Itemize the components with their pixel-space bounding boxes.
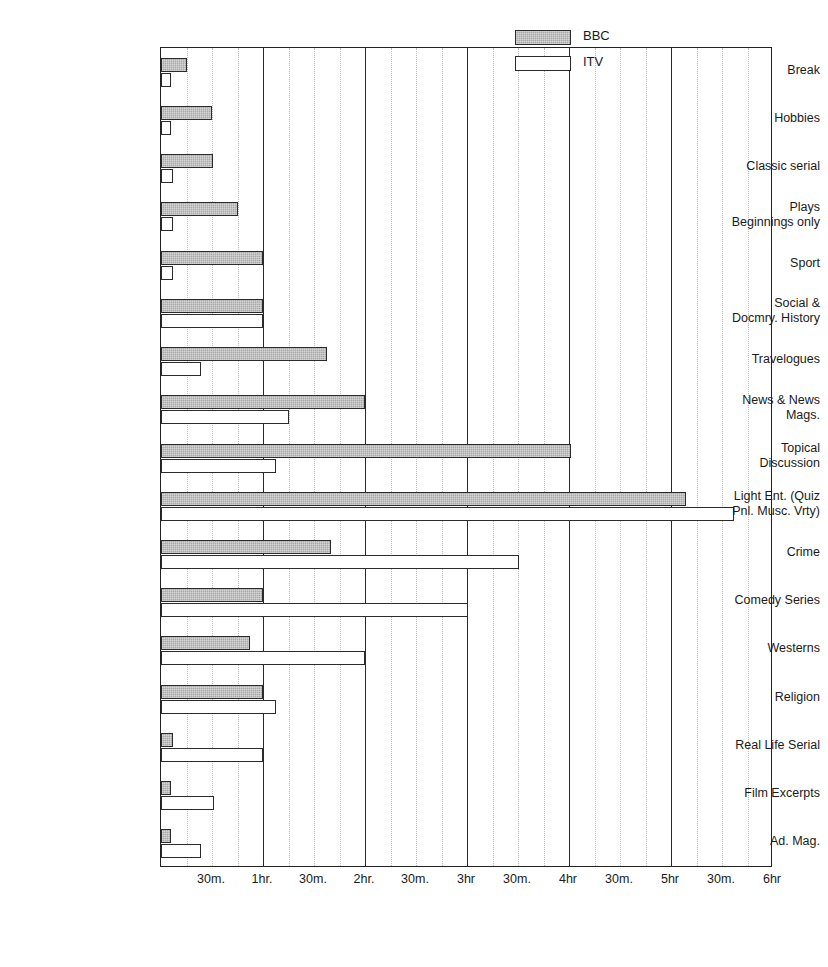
bar-itv [161, 748, 263, 762]
category-label-line1: Plays [789, 200, 820, 214]
category-label-line1: Hobbies [774, 111, 820, 125]
category-label: Film Excerpts [676, 786, 828, 801]
category-label-line2: Discussion [676, 456, 820, 471]
category-label-line1: Real Life Serial [735, 738, 820, 752]
category-label: Religion [676, 690, 828, 705]
category-label: Crime [676, 545, 828, 560]
bar-itv [161, 169, 173, 183]
bar-itv [161, 651, 365, 665]
bar-itv [161, 700, 276, 714]
category-label: News & NewsMags. [676, 393, 828, 423]
category-label-line1: Crime [787, 545, 820, 559]
category-label: Light Ent. (QuizPnl. Musc. Vrty) [676, 489, 828, 519]
bar-bbc [161, 685, 263, 699]
bar-itv [161, 73, 171, 87]
bar-bbc [161, 251, 263, 265]
bar-itv [161, 796, 214, 810]
x-tick-label: 6hr [742, 872, 802, 886]
category-label: PlaysBeginnings only [676, 200, 828, 230]
bar-bbc [161, 540, 331, 554]
bar-chart-figure: BreakHobbiesClassic serialPlaysBeginning… [0, 0, 828, 967]
legend-item-itv: ITV [515, 52, 665, 78]
category-label: Sport [676, 256, 828, 271]
category-label: Classic serial [676, 159, 828, 174]
legend-label: BBC [583, 28, 610, 43]
category-label: Travelogues [676, 352, 828, 367]
bar-bbc [161, 733, 173, 747]
bar-itv [161, 410, 289, 424]
category-label-line1: Break [787, 63, 820, 77]
bar-bbc [161, 299, 263, 313]
category-label-line1: Ad. Mag. [770, 834, 820, 848]
bar-itv [161, 266, 173, 280]
category-label: TopicalDiscussion [676, 441, 828, 471]
bar-itv [161, 314, 263, 328]
bar-itv [161, 217, 173, 231]
bar-itv [161, 844, 201, 858]
category-label-line2: Mags. [676, 408, 820, 423]
category-label-line1: News & News [742, 393, 820, 407]
category-label-line1: Travelogues [752, 352, 820, 366]
bar-bbc [161, 202, 238, 216]
category-label-line2: Docmry. History [676, 311, 820, 326]
category-label-line1: Comedy Series [735, 593, 820, 607]
legend-label: ITV [583, 54, 603, 69]
category-label: Break [676, 63, 828, 78]
bar-itv [161, 362, 201, 376]
legend: BBCITV [515, 26, 665, 78]
category-label-line1: Light Ent. (Quiz [734, 489, 820, 503]
bar-bbc [161, 829, 171, 843]
category-label-line1: Topical [781, 441, 820, 455]
category-label: Westerns [676, 641, 828, 656]
category-label: Real Life Serial [676, 738, 828, 753]
category-label-line2: Pnl. Musc. Vrty) [676, 504, 820, 519]
bar-itv [161, 507, 734, 521]
bar-itv [161, 603, 468, 617]
category-label-line2: Beginnings only [676, 215, 820, 230]
category-label-line1: Classic serial [746, 159, 820, 173]
legend-swatch-bbc [515, 30, 571, 45]
bar-bbc [161, 444, 571, 458]
bar-bbc [161, 636, 250, 650]
bar-itv [161, 555, 519, 569]
category-label: Comedy Series [676, 593, 828, 608]
category-label: Social &Docmry. History [676, 296, 828, 326]
bar-itv [161, 459, 276, 473]
bar-bbc [161, 395, 365, 409]
category-label: Hobbies [676, 111, 828, 126]
bar-bbc [161, 588, 263, 602]
legend-item-bbc: BBC [515, 26, 665, 52]
category-label-line1: Sport [790, 256, 820, 270]
bar-bbc [161, 106, 212, 120]
category-label: Ad. Mag. [676, 834, 828, 849]
bar-bbc [161, 347, 327, 361]
bar-bbc [161, 58, 187, 72]
gridline-major [671, 48, 672, 866]
category-label-line1: Social & [774, 296, 820, 310]
gridline-minor [620, 48, 621, 866]
category-label-line1: Religion [775, 690, 820, 704]
bar-bbc [161, 781, 171, 795]
category-label-line1: Westerns [767, 641, 820, 655]
gridline-minor [595, 48, 596, 866]
bar-bbc [161, 154, 213, 168]
category-label-line1: Film Excerpts [744, 786, 820, 800]
legend-swatch-itv [515, 56, 571, 71]
bar-bbc [161, 492, 686, 506]
bar-itv [161, 121, 171, 135]
gridline-minor [646, 48, 647, 866]
